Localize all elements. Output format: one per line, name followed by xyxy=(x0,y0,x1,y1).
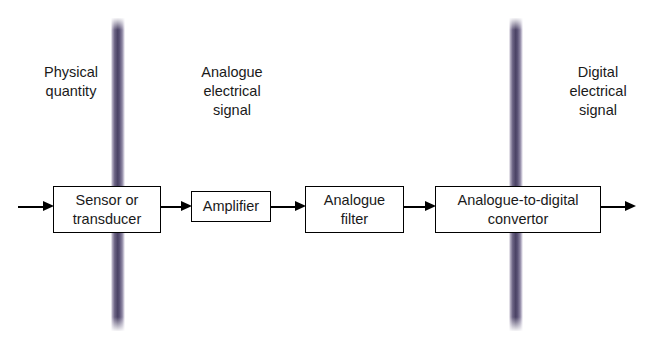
arrow-shaft xyxy=(601,206,626,208)
arrow-sensor-to-amplifier xyxy=(161,201,192,212)
diagram-canvas: Physical quantity Analogue electrical si… xyxy=(0,0,650,352)
domain-divider-bar-right xyxy=(509,18,523,331)
arrow-input xyxy=(18,201,54,212)
arrow-shaft xyxy=(271,206,296,208)
arrow-head-icon xyxy=(181,201,192,211)
arrow-shaft xyxy=(18,206,44,208)
caption-physical-quantity: Physical quantity xyxy=(34,63,108,101)
arrow-amplifier-to-filter xyxy=(271,201,306,212)
arrow-head-icon xyxy=(295,201,306,211)
arrow-head-icon xyxy=(425,201,436,211)
block-analogue-to-digital-convertor: Analogue-to-digital convertor xyxy=(435,186,601,233)
block-sensor-or-transducer: Sensor or transducer xyxy=(53,186,161,233)
block-analogue-filter: Analogue filter xyxy=(305,186,404,233)
arrow-head-icon xyxy=(625,201,636,211)
arrow-shaft xyxy=(404,206,426,208)
caption-digital-electrical-signal: Digital electrical signal xyxy=(558,63,638,120)
arrow-head-icon xyxy=(43,201,54,211)
arrow-shaft xyxy=(161,206,182,208)
caption-analogue-electrical-signal: Analogue electrical signal xyxy=(188,63,276,120)
domain-divider-bar-left xyxy=(111,18,125,331)
arrow-filter-to-adc xyxy=(404,201,436,212)
arrow-output xyxy=(601,201,636,212)
block-amplifier: Amplifier xyxy=(191,191,271,222)
